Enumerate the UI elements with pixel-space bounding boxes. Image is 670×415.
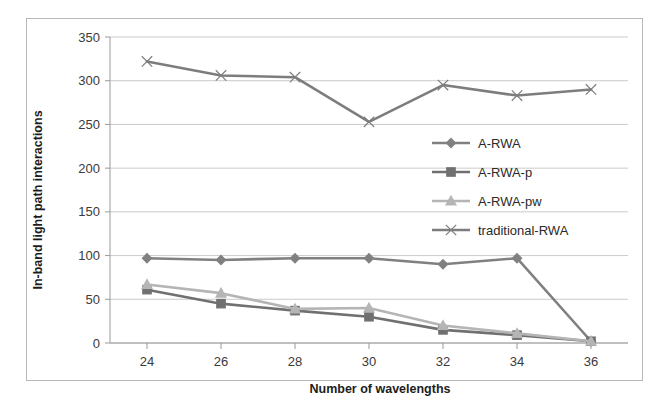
legend-label: A-RWA (478, 136, 521, 151)
data-point-marker (365, 313, 373, 321)
y-tick-label: 50 (86, 292, 100, 307)
legend-item-traditional-rwa: traditional-RWA (432, 223, 569, 238)
legend-item-a-rwa: A-RWA (432, 136, 521, 151)
chart-figure: 050100150200250300350 24262830323436 A-R… (0, 0, 670, 415)
data-point-marker (364, 254, 373, 263)
data-point-marker (216, 255, 225, 264)
series-a-rwa-pw (142, 279, 596, 345)
line-chart-plot: 050100150200250300350 24262830323436 A-R… (0, 0, 670, 415)
x-tick-label: 34 (510, 354, 524, 369)
x-tick-label: 30 (362, 354, 376, 369)
y-tick-label: 200 (78, 161, 100, 176)
y-tick-label: 100 (78, 248, 100, 263)
data-point-marker (446, 138, 455, 147)
data-point-marker (290, 254, 299, 263)
x-tick-label: 26 (214, 354, 228, 369)
legend-item-a-rwa-p: A-RWA-p (432, 165, 532, 180)
x-tick-label: 28 (288, 354, 302, 369)
y-tick-label: 300 (78, 73, 100, 88)
y-tick-label: 250 (78, 117, 100, 132)
x-tick-label: 36 (584, 354, 598, 369)
y-tick-label: 0 (93, 336, 100, 351)
data-point-marker (447, 168, 455, 176)
chart-legend: A-RWAA-RWA-pA-RWA-pwtraditional-RWA (432, 136, 569, 238)
series-line (147, 61, 591, 121)
data-point-marker (438, 260, 447, 269)
legend-item-a-rwa-pw: A-RWA-pw (432, 194, 542, 209)
legend-label: traditional-RWA (478, 223, 569, 238)
data-point-marker (217, 299, 225, 307)
y-axis: 050100150200250300350 (78, 30, 110, 351)
x-axis: 24262830323436 (110, 343, 628, 369)
y-axis-title: In-band light path interactions (31, 110, 45, 289)
series-traditional-rwa (142, 56, 596, 127)
legend-label: A-RWA-pw (478, 194, 542, 209)
y-tick-label: 150 (78, 204, 100, 219)
series-a-rwa-p (143, 285, 595, 345)
x-tick-label: 32 (436, 354, 450, 369)
x-tick-label: 24 (140, 354, 154, 369)
data-point-marker (142, 254, 151, 263)
y-tick-label: 350 (78, 30, 100, 45)
legend-label: A-RWA-p (478, 165, 532, 180)
x-axis-title: Number of wavelengths (310, 382, 451, 396)
